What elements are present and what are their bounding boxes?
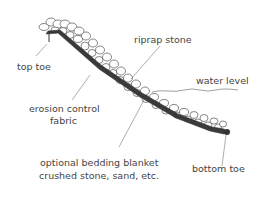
water-level-line xyxy=(152,89,238,92)
label-erosion-fabric-1: erosion control xyxy=(29,103,100,114)
label-bedding-1: optional bedding blanket xyxy=(40,157,158,168)
label-riprap-stone: riprap stone xyxy=(134,34,192,45)
label-erosion-fabric-2: fabric xyxy=(50,115,77,126)
label-bottom-toe: bottom toe xyxy=(192,163,245,174)
label-bedding-2: crushed stone, sand, etc. xyxy=(39,170,159,181)
label-water-level: water level xyxy=(196,75,249,86)
label-top-toe: top toe xyxy=(17,61,51,72)
